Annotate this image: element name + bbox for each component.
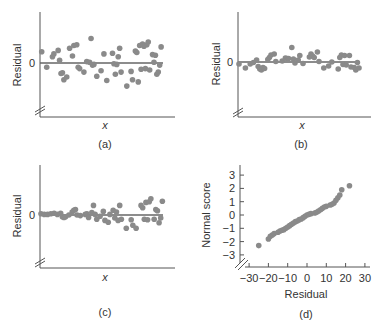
data-point bbox=[91, 62, 97, 68]
data-point bbox=[105, 219, 111, 225]
zero-tick-label: 0 bbox=[29, 209, 35, 221]
data-point bbox=[135, 79, 141, 85]
data-point bbox=[110, 50, 116, 56]
data-point bbox=[262, 66, 268, 72]
data-point bbox=[311, 55, 317, 61]
x-axis-label: x bbox=[101, 271, 108, 283]
y-tick-label: 1 bbox=[229, 196, 235, 208]
data-point bbox=[355, 60, 361, 66]
data-point bbox=[145, 217, 151, 223]
x-axis-label: x bbox=[298, 119, 305, 131]
x-tick-label: 10 bbox=[320, 272, 332, 284]
x-axis-label: x bbox=[101, 119, 108, 131]
scatter-points bbox=[236, 45, 362, 73]
data-point bbox=[114, 209, 120, 215]
x-tick-label: 30 bbox=[359, 272, 371, 284]
data-point bbox=[254, 57, 260, 63]
data-point bbox=[130, 77, 136, 83]
data-point bbox=[117, 46, 123, 52]
data-point bbox=[64, 74, 70, 80]
x-axis-label: Residual bbox=[285, 288, 328, 300]
x-tick-label: −30 bbox=[240, 272, 259, 284]
data-point bbox=[114, 62, 120, 68]
data-point bbox=[94, 74, 100, 80]
data-point bbox=[329, 59, 335, 65]
data-point bbox=[342, 53, 348, 59]
data-point bbox=[155, 69, 161, 75]
data-point bbox=[321, 65, 327, 71]
data-point bbox=[128, 69, 134, 75]
y-axis-label: Residual bbox=[210, 43, 222, 86]
panel-caption: (d) bbox=[299, 308, 312, 320]
figure: Residual 0 x (a) Residual 0 x (b) Residu… bbox=[0, 0, 378, 329]
data-point bbox=[256, 243, 262, 249]
y-tick-label: 0 bbox=[229, 209, 235, 221]
data-point bbox=[153, 53, 159, 59]
data-point bbox=[151, 60, 157, 66]
y-tick-label: −3 bbox=[222, 249, 235, 261]
data-point bbox=[243, 65, 249, 71]
data-point bbox=[145, 39, 151, 45]
data-point bbox=[97, 213, 103, 219]
data-point bbox=[155, 208, 161, 214]
data-point bbox=[115, 54, 121, 60]
data-point bbox=[148, 196, 154, 202]
data-point bbox=[60, 70, 66, 76]
zero-tick-label: 0 bbox=[227, 56, 233, 68]
panel-caption: (b) bbox=[294, 138, 307, 150]
data-point bbox=[98, 68, 104, 74]
data-point bbox=[140, 205, 146, 211]
scatter-points bbox=[256, 183, 352, 248]
y-axis-label: Normal score bbox=[200, 182, 212, 247]
panel-a: Residual 0 x (a) bbox=[11, 12, 175, 150]
x-tick-label: 20 bbox=[339, 272, 351, 284]
data-point bbox=[55, 48, 61, 54]
data-point bbox=[57, 57, 63, 63]
data-point bbox=[157, 62, 163, 68]
data-point bbox=[124, 83, 130, 89]
data-point bbox=[347, 53, 353, 59]
data-point bbox=[316, 59, 322, 65]
data-point bbox=[297, 53, 303, 59]
y-axis-label: Residual bbox=[11, 44, 23, 87]
zero-tick-label: 0 bbox=[29, 57, 35, 69]
data-point bbox=[92, 212, 98, 218]
x-tick-label: 0 bbox=[304, 272, 310, 284]
data-point bbox=[88, 36, 94, 42]
data-point bbox=[117, 203, 123, 209]
data-point bbox=[347, 183, 353, 189]
data-point bbox=[74, 42, 80, 48]
data-point bbox=[158, 215, 164, 221]
data-point bbox=[119, 216, 125, 222]
y-tick-label: 2 bbox=[229, 182, 235, 194]
data-point bbox=[335, 66, 341, 72]
data-point bbox=[160, 198, 166, 204]
panel-caption: (c) bbox=[99, 306, 112, 318]
x-tick-label: −20 bbox=[259, 272, 278, 284]
data-point bbox=[289, 45, 295, 51]
scatter-points bbox=[38, 196, 165, 231]
data-point bbox=[101, 209, 107, 215]
panel-c: Residual 0 x (c) bbox=[11, 165, 175, 318]
data-point bbox=[104, 78, 110, 84]
axis-break-icon bbox=[235, 258, 248, 270]
data-point bbox=[158, 44, 164, 50]
data-point bbox=[86, 215, 92, 221]
data-point bbox=[147, 67, 153, 73]
data-point bbox=[271, 51, 277, 57]
panel-d: −30−20−1001020303210−1−2−3 Normal score … bbox=[200, 165, 371, 320]
y-tick-label: 3 bbox=[229, 169, 235, 181]
data-point bbox=[78, 213, 84, 219]
y-tick-label: −1 bbox=[222, 222, 235, 234]
data-point bbox=[128, 217, 134, 223]
data-point bbox=[273, 59, 279, 65]
data-point bbox=[44, 64, 50, 70]
panel-b: Residual 0 x (b) bbox=[210, 12, 371, 150]
data-point bbox=[70, 53, 76, 59]
data-point bbox=[236, 61, 242, 67]
data-point bbox=[151, 216, 157, 222]
data-point bbox=[300, 61, 306, 67]
data-point bbox=[286, 56, 292, 62]
data-point bbox=[133, 225, 139, 231]
data-point bbox=[73, 207, 79, 213]
